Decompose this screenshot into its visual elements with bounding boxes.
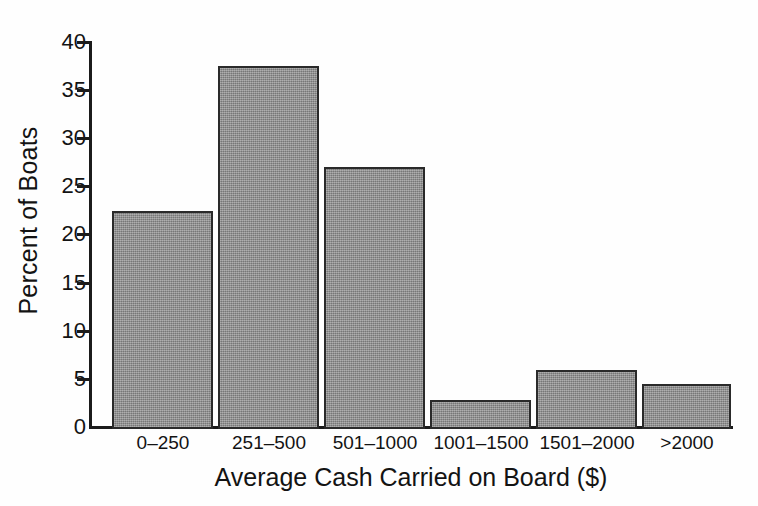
x-tick-label-0-250: 0–250 [137,431,190,455]
x-axis-tick-labels: 0–250 251–500 501–1000 1001–1500 1501–20… [89,431,733,459]
x-tick-label-1501-2000: 1501–2000 [539,431,634,455]
x-axis-title: Average Cash Carried on Board ($) [89,462,733,492]
bar-251-500 [218,66,319,429]
x-tick-label-over-2000: >2000 [660,431,713,455]
bar-1001-1500 [430,400,531,429]
y-axis-tick-labels: 40 35 30 25 20 15 10 5 0 [40,0,86,506]
bar-1501-2000 [536,370,637,429]
bar-501-1000 [324,167,425,429]
bar-over-2000 [642,384,731,429]
x-tick-label-501-1000: 501–1000 [333,431,418,455]
x-tick-label-251-500: 251–500 [232,431,306,455]
plot-area [89,41,733,429]
bar-0-250 [112,211,213,429]
y-tick-label-0: 0 [74,416,86,438]
y-axis-title-label: Percent of Boats [14,126,43,314]
histogram-chart: Percent of Boats 40 35 30 25 20 15 10 5 … [0,0,758,506]
x-tick-label-1001-1500: 1001–1500 [433,431,528,455]
